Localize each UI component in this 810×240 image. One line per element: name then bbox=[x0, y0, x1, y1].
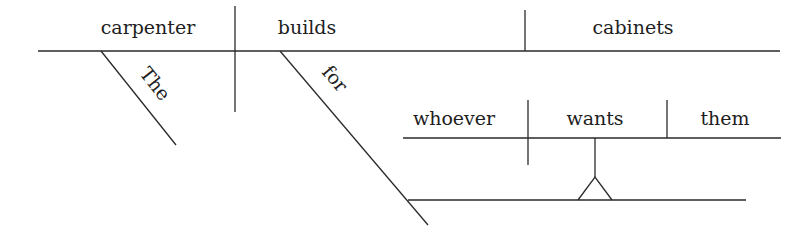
clause-object-word: them bbox=[700, 107, 749, 129]
diagram-canvas: carpenter builds cabinets The for whoeve… bbox=[0, 0, 810, 240]
sentence-diagram: carpenter builds cabinets The for whoeve… bbox=[0, 0, 810, 240]
verb-word: builds bbox=[278, 16, 336, 38]
subject-word: carpenter bbox=[101, 16, 197, 38]
direct-object-word: cabinets bbox=[592, 16, 673, 38]
clause-verb-word: wants bbox=[566, 107, 623, 129]
clause-subject-word: whoever bbox=[413, 107, 496, 129]
stilt-pedestal bbox=[578, 177, 612, 200]
article-modifier-word: The bbox=[136, 63, 176, 105]
preposition-word: for bbox=[318, 61, 353, 97]
